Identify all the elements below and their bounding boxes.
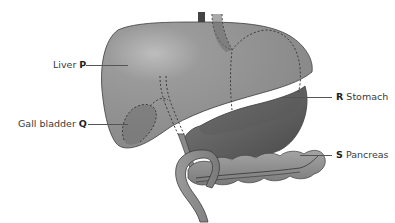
label-gall-bladder: Gall bladder Q	[18, 119, 87, 129]
label-stomach-name: Stomach	[346, 91, 388, 102]
label-stomach: R Stomach	[336, 92, 388, 102]
label-liver-name: Liver	[53, 59, 76, 70]
label-liver-letter: P	[79, 59, 86, 70]
label-gall-bladder-letter: Q	[79, 118, 87, 129]
oesophagus	[198, 12, 205, 22]
gall-bladder-leader-line	[88, 124, 128, 125]
liver-leader-line	[86, 65, 128, 66]
label-pancreas: S Pancreas	[336, 150, 389, 160]
label-pancreas-name: Pancreas	[346, 149, 389, 160]
stomach-leader-line	[280, 97, 332, 98]
label-liver: Liver P	[53, 60, 86, 70]
pancreas-leader-line	[300, 155, 332, 156]
duodenum	[176, 150, 220, 222]
label-pancreas-letter: S	[336, 149, 343, 160]
label-gall-bladder-name: Gall bladder	[18, 118, 76, 129]
organ-diagram	[0, 0, 395, 223]
label-stomach-letter: R	[336, 91, 343, 102]
